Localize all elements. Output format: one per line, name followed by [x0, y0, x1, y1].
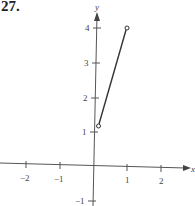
open-endpoint-upper — [125, 26, 129, 30]
open-endpoint-lower — [97, 124, 101, 128]
x-tick-2: 2 — [159, 176, 164, 186]
y-ticks: 4 3 2 1 −1 — [75, 23, 101, 206]
y-tick-3: 3 — [84, 58, 89, 68]
y-axis-arrow-icon — [94, 12, 100, 21]
x-ticks: −2 −1 1 2 — [20, 161, 164, 186]
graph: x y −2 −1 1 2 4 3 2 1 −1 — [0, 0, 195, 206]
x-tick-1: 1 — [125, 175, 130, 185]
y-axis-label: y — [94, 2, 99, 12]
x-axis — [0, 163, 186, 168]
y-tick-4: 4 — [85, 23, 90, 33]
x-axis-label: x — [190, 164, 195, 174]
y-tick-1: 1 — [82, 127, 87, 137]
y-tick-2: 2 — [83, 93, 88, 103]
x-axis-arrow-icon — [183, 165, 191, 171]
x-tick-neg2: −2 — [20, 173, 30, 183]
y-tick-neg1: −1 — [75, 196, 85, 206]
y-axis — [93, 14, 97, 206]
x-tick-neg1: −1 — [54, 174, 64, 184]
line-segment — [99, 30, 126, 124]
